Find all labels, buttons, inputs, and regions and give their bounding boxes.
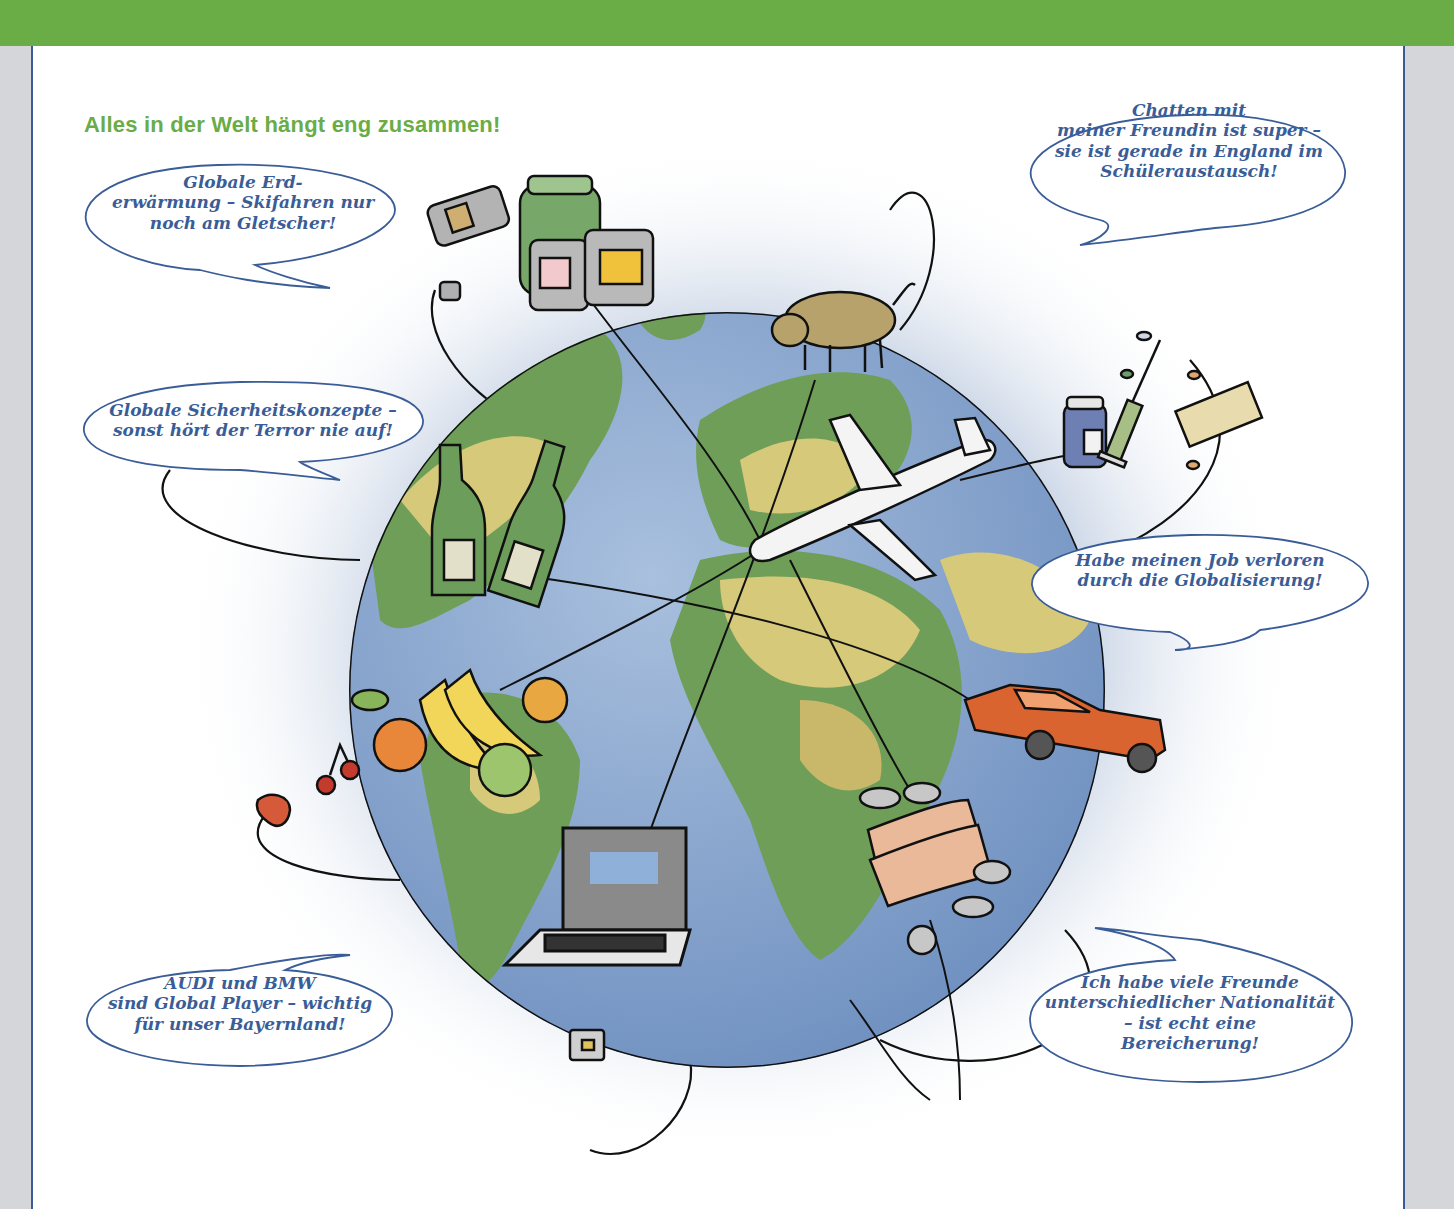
bubble-line: Ich habe viele Freunde: [1025, 972, 1355, 992]
bubble-line: sie ist gerade in England im: [1030, 141, 1348, 161]
speech-bubble-job: Habe meinen Job verloren durch die Globa…: [1035, 550, 1365, 591]
bubble-line: sonst hört der Terror nie auf!: [82, 420, 424, 440]
bubble-line: Habe meinen Job verloren: [1035, 550, 1365, 570]
bubble-line: sind Global Player – wichtig: [85, 993, 395, 1013]
speech-bubble-freunde: Ich habe viele Freunde unterschiedlicher…: [1025, 972, 1355, 1054]
bubble-line: Chatten mit: [1030, 100, 1348, 120]
bubble-line: Schüleraustausch!: [1030, 161, 1348, 181]
bubble-line: für unser Bayernland!: [85, 1014, 395, 1034]
microchip-icon: [570, 1030, 604, 1060]
bubble-line: Globale Erd-: [88, 172, 398, 192]
bubble-line: – ist echt eine: [1025, 1013, 1355, 1033]
bubble-line: Globale Sicherheitskonzepte –: [82, 400, 424, 420]
bubble-line: AUDI und BMW: [85, 973, 395, 993]
bubble-line: noch am Gletscher!: [88, 213, 398, 233]
speech-bubble-audi-bmw: AUDI und BMW sind Global Player – wichti…: [85, 973, 395, 1034]
bubble-line: unterschiedlicher Nationalität: [1025, 992, 1355, 1012]
speech-bubble-erderwaermung: Globale Erd- erwärmung – Skifahren nur n…: [88, 172, 398, 233]
speech-bubble-sicherheit: Globale Sicherheitskonzepte – sonst hört…: [82, 400, 424, 441]
speech-bubble-chatten: Chatten mit meiner Freundin ist super – …: [1030, 100, 1348, 182]
bubble-line: Bereicherung!: [1025, 1033, 1355, 1053]
page-title: Alles in der Welt hängt eng zusammen!: [84, 112, 501, 138]
bubble-line: erwärmung – Skifahren nur: [88, 192, 398, 212]
bubble-line: meiner Freundin ist super –: [1030, 120, 1348, 140]
bubble-line: durch die Globalisierung!: [1035, 570, 1365, 590]
